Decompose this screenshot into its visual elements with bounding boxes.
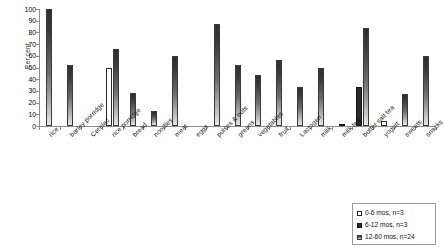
bar [255, 75, 261, 126]
y-axis-tick-label: 80 [28, 29, 36, 36]
bar [46, 9, 52, 126]
y-axis-tick-mark [36, 126, 39, 127]
bar [339, 124, 345, 126]
y-axis-tick-mark [36, 79, 39, 80]
legend-item: 0-6 mos, n=3 [357, 207, 431, 219]
y-axis-tick-mark [36, 21, 39, 22]
y-axis-tick-mark [36, 32, 39, 33]
y-axis-tick-mark [36, 9, 39, 10]
bar [363, 28, 369, 126]
x-axis-tick-label: rice [47, 125, 60, 138]
y-axis-tick-mark [36, 68, 39, 69]
y-axis-tick-mark [36, 114, 39, 115]
bar [172, 56, 178, 126]
y-axis-tick-label: 100 [25, 6, 36, 13]
legend-label: 12-60 mos, n=24 [365, 233, 415, 241]
y-axis-tick-mark [36, 103, 39, 104]
x-axis-tick-mark [39, 127, 40, 130]
bar [151, 111, 157, 126]
bar [297, 87, 303, 126]
y-axis-tick-label: 70 [28, 41, 36, 48]
y-axis-tick-mark [36, 91, 39, 92]
y-axis-tick-label: 50 [28, 64, 36, 71]
bar [67, 65, 73, 126]
bar [402, 94, 408, 126]
y-axis-tick-labels: 1009080706050403020100 [16, 6, 36, 126]
legend-swatch-icon [357, 223, 362, 228]
legend-item: 6-12 mos, n=3 [357, 219, 431, 231]
legend-swatch-icon [357, 235, 362, 240]
legend-item: 12-60 mos, n=24 [357, 231, 431, 243]
y-axis-tick-mark [36, 44, 39, 45]
legend: 0-6 mos, n=36-12 mos, n=312-60 mos, n=24 [352, 203, 436, 245]
y-axis-tick-label: 90 [28, 17, 36, 24]
y-axis-tick-label: 20 [28, 99, 36, 106]
y-axis-tick-label: 10 [28, 111, 36, 118]
y-axis-tick-label: 30 [28, 87, 36, 94]
bar [214, 24, 220, 126]
legend-label: 6-12 mos, n=3 [365, 221, 407, 229]
bar [113, 49, 119, 126]
legend-swatch-icon [357, 211, 362, 216]
legend-label: 0-6 mos, n=3 [365, 209, 404, 217]
y-axis-tick-label: 40 [28, 76, 36, 83]
y-axis-tick-mark [36, 56, 39, 57]
y-axis-tick-label: 60 [28, 52, 36, 59]
bar [423, 56, 429, 126]
